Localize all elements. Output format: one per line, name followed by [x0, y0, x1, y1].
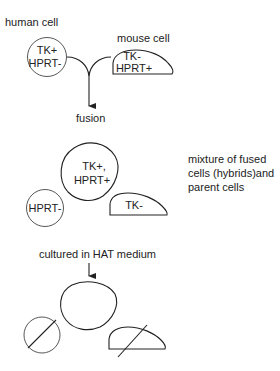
mouse-cell-hprt: HPRT+ — [116, 62, 152, 74]
human-cell-tk: TK+ — [37, 44, 57, 56]
hybrid-cell-tk: TK+, — [82, 160, 106, 172]
hybrid-cell-hprt: HPRT+ — [74, 174, 110, 186]
mouse-cell-label: mouse cell — [117, 32, 170, 44]
dead-mouse-cell-slash — [118, 325, 147, 357]
dead-mouse-cell-shape — [109, 327, 165, 349]
human-cell-label: human cell — [5, 16, 58, 28]
mixture-description-line1: mixture of fused — [188, 153, 266, 165]
mouse-parent-tk: TK- — [125, 199, 143, 211]
fusion-connector-right — [89, 57, 111, 76]
fusion-connector-left — [67, 57, 89, 76]
mixture-description-line2: cells (hybrids)and — [188, 167, 274, 179]
dead-human-cell-shape — [24, 317, 60, 353]
fusion-label: fusion — [76, 112, 105, 124]
dead-human-cell-slash — [28, 320, 56, 348]
human-cell-hprt: HPRT- — [29, 57, 62, 69]
cell-fusion-diagram: human cell TK+ HPRT- mouse cell TK- HPRT… — [0, 0, 280, 371]
mixture-description-line3: parent cells — [188, 181, 245, 193]
hat-medium-label: cultured in HAT medium — [39, 248, 156, 260]
human-parent-hprt: HPRT- — [29, 202, 62, 214]
surviving-hybrid-cell-shape — [61, 282, 117, 330]
mouse-cell-tk: TK- — [123, 50, 141, 62]
